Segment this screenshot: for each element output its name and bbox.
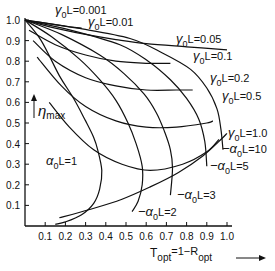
y-tick-label: 0.8 (6, 56, 20, 67)
x-axis-label: Topt=1−Ropt (150, 245, 266, 263)
y-tick-label: 0.3 (6, 159, 20, 170)
y-tick-label: 0.4 (6, 139, 20, 150)
efficiency-chart: 0.10.20.30.40.50.60.70.80.91.0 0.10.20.3… (0, 0, 275, 271)
x-tick-label: 1.0 (220, 231, 234, 242)
x-tick-label: 0.1 (38, 231, 52, 242)
y-tick-label: 0.5 (6, 118, 20, 129)
svg-text:Topt=1−Ropt: Topt=1−Ropt (150, 245, 212, 263)
y-axis-label: ηmax (31, 94, 65, 121)
y-tick-label: 0.7 (6, 77, 20, 88)
x-axis-label-r-sub: opt (198, 252, 212, 263)
alpha-curve-0l1 (25, 20, 102, 224)
gamma-curve-label: γ0L=0.5 (222, 88, 261, 106)
alpha-curve-label: −α0L=5 (210, 158, 249, 176)
x-ticks: 0.10.20.30.40.50.60.70.80.91.0 (38, 222, 234, 242)
x-tick-label: 0.6 (139, 231, 153, 242)
axes: 0.10.20.30.40.50.60.70.80.91.0 0.10.20.3… (6, 15, 234, 242)
x-tick-label: 0.5 (119, 231, 133, 242)
x-axis-label-t-sub: opt (157, 252, 171, 263)
x-tick-label: 0.4 (99, 231, 113, 242)
curve-labels: γ0L=0.001γ0L=0.01γ0L=0.05γ0L=0.1γ0L=0.2γ… (46, 2, 267, 222)
y-tick-label: 0.2 (6, 180, 20, 191)
right-arrowhead-icon (259, 255, 266, 261)
y-axis-label-subscript: max (46, 110, 65, 121)
x-axis-label-mid: =1−R (171, 245, 198, 257)
x-tick-label: 0.2 (58, 231, 72, 242)
y-axis-label-symbol: η (38, 102, 46, 119)
x-tick-label: 0.7 (159, 231, 173, 242)
gamma-curve-label: γ0L=0.01 (88, 14, 133, 32)
alpha-curve-label: −α0L=10 (222, 141, 267, 159)
alpha-curve-label: −α0L=3 (177, 187, 216, 205)
y-tick-label: 0.9 (6, 36, 20, 47)
gamma-curve-label: γ0L=0.2 (210, 70, 249, 88)
gamma-curve-label: γ0L=0.1 (193, 48, 232, 66)
gamma-curve-label: γ0L=0.05 (176, 31, 221, 49)
gamma-curve-0l01 (33, 41, 193, 91)
up-arrowhead-icon (31, 94, 37, 101)
y-tick-label: 0.6 (6, 97, 20, 108)
alpha-curve-label: −α0L=2 (138, 204, 177, 222)
alpha-curve-label: α0L=1 (46, 153, 77, 171)
x-tick-label: 0.3 (79, 231, 93, 242)
x-tick-label: 0.9 (200, 231, 214, 242)
gamma-curve-0l0001 (25, 20, 82, 28)
y-tick-label: 0.1 (6, 200, 20, 211)
x-tick-label: 0.8 (180, 231, 194, 242)
y-tick-label: 1.0 (6, 15, 20, 26)
